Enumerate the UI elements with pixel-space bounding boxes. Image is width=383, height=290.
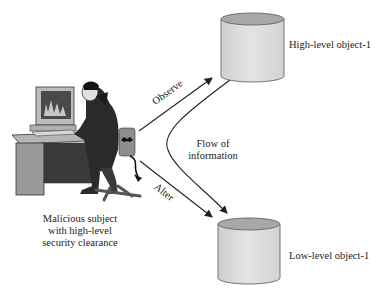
flow-of-information-label: Flow of information: [176, 138, 250, 162]
subject-caption: Malicious subject with high-level securi…: [20, 213, 140, 249]
low-level-object-label: Low-level object-1: [289, 250, 369, 262]
subject-caption-line-3: security clearance: [20, 237, 140, 249]
diagram-canvas: High-level object-1 Low-level object-1 O…: [0, 0, 383, 290]
malicious-subject-illustration: [12, 82, 142, 201]
subject-caption-line-2: with high-level: [20, 225, 140, 237]
flow-label-line-2: information: [176, 150, 250, 162]
high-level-object-label: High-level object-1: [289, 39, 371, 51]
low-level-object-cylinder: [218, 218, 280, 284]
flow-label-line-1: Flow of: [176, 138, 250, 150]
subject-caption-line-1: Malicious subject: [20, 213, 140, 225]
high-level-object-cylinder: [221, 13, 284, 82]
